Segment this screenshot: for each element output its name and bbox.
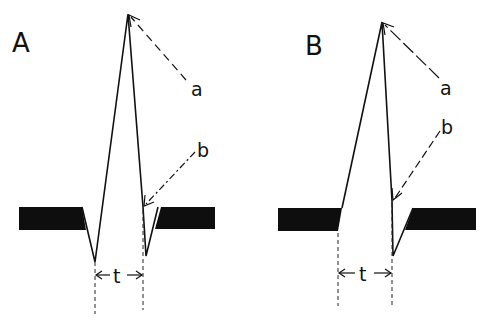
arrowhead-a-b-icon: [383, 23, 394, 35]
baseline-bar-right-a: [155, 207, 215, 229]
interval-label-t-b: t: [359, 263, 366, 285]
panel-b: B a b t: [278, 22, 476, 306]
annotation-b-label: b: [197, 139, 209, 161]
waveform-trace-b: [342, 22, 413, 256]
annotation-a-label: a: [191, 78, 203, 100]
annotation-a-label-b: a: [440, 77, 452, 99]
interval-label-t-a: t: [113, 265, 120, 287]
leader-line-b: [146, 152, 195, 204]
leader-line-a-b: [385, 25, 439, 78]
panel-label-a: A: [12, 28, 30, 58]
baseline-bar-left-b: [278, 208, 342, 231]
waveform-trace-a: [82, 14, 158, 262]
leader-line-b-b: [395, 131, 440, 198]
panel-label-b: B: [305, 31, 323, 61]
pulse-waveform-figure: A a b t B a: [0, 0, 489, 322]
leader-line-a: [131, 17, 186, 80]
panel-a: A a b t: [12, 14, 215, 314]
annotation-b-label-b: b: [441, 116, 453, 138]
baseline-bar-right-b: [405, 208, 476, 230]
baseline-bar-left-a: [19, 207, 86, 230]
